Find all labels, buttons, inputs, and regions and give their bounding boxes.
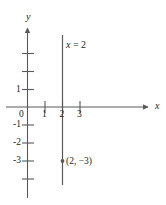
coordinate-plane-svg <box>0 0 166 205</box>
graph-figure: y x 0 1 2 3 1 -1 -2 -3 x = 2 (2, −3) <box>0 0 166 205</box>
y-axis-label: y <box>26 12 30 22</box>
y-tick-label-1: 1 <box>16 85 21 95</box>
x-tick-label-3: 3 <box>77 110 82 120</box>
plotted-point-2-neg3 <box>61 159 65 163</box>
y-tick-label-neg3: -3 <box>13 156 21 166</box>
x-tick-label-2: 2 <box>60 110 65 120</box>
y-tick-label-neg1: -1 <box>13 120 21 130</box>
line-equation-label: x = 2 <box>66 40 86 50</box>
point-coordinate-label: (2, −3) <box>66 157 92 167</box>
y-tick-label-neg2: -2 <box>13 138 21 148</box>
x-axis-label: x <box>155 101 159 111</box>
x-tick-label-1: 1 <box>42 110 47 120</box>
line-equation-value: = 2 <box>70 39 86 50</box>
